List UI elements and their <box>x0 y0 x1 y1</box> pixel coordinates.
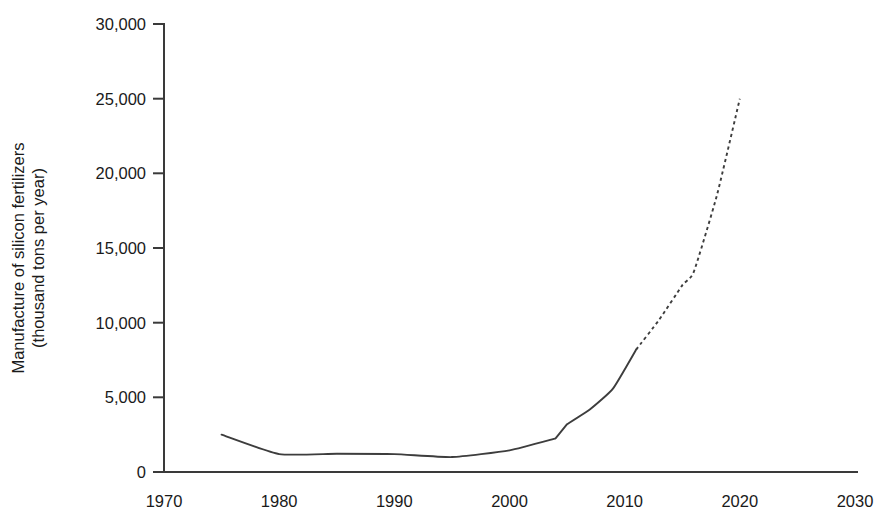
y-tick-label-20000: 20,000 <box>96 164 146 182</box>
y-tick-label-25000: 25,000 <box>96 90 146 108</box>
y-tick-label-10000: 10,000 <box>96 314 146 332</box>
x-tick-label-2010: 2010 <box>606 492 643 510</box>
x-tick-label-2000: 2000 <box>491 492 528 510</box>
series-line-historical <box>222 350 637 458</box>
line-chart-canvas: 30,000 25,000 20,000 15,000 10,000 5,000… <box>0 0 883 517</box>
y-axis-ticks <box>153 24 164 472</box>
x-tick-label-1980: 1980 <box>261 492 298 510</box>
y-tick-label-30000: 30,000 <box>96 15 146 33</box>
chart-figure: 30,000 25,000 20,000 15,000 10,000 5,000… <box>0 0 883 517</box>
y-axis-title: Manufacture of silicon fertilizers (thou… <box>9 142 47 373</box>
y-tick-label-5000: 5,000 <box>105 388 146 406</box>
y-axis-title-line-2: (thousand tons per year) <box>29 168 47 348</box>
y-axis-title-line-1: Manufacture of silicon fertilizers <box>9 142 27 373</box>
series-line-forecast <box>636 99 740 350</box>
y-axis-tick-labels: 30,000 25,000 20,000 15,000 10,000 5,000… <box>96 15 146 481</box>
x-tick-label-1970: 1970 <box>146 492 183 510</box>
y-tick-label-0: 0 <box>137 463 146 481</box>
x-tick-label-2030: 2030 <box>837 492 874 510</box>
y-tick-label-15000: 15,000 <box>96 239 146 257</box>
x-axis-tick-labels: 1970 1980 1990 2000 2010 2020 2030 <box>146 492 874 510</box>
x-tick-label-1990: 1990 <box>376 492 413 510</box>
x-tick-label-2020: 2020 <box>721 492 758 510</box>
